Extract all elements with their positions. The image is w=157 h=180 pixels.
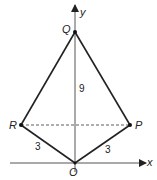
side-po xyxy=(75,125,130,163)
side-ro xyxy=(21,125,75,163)
side-qr xyxy=(21,32,75,125)
label-x: x xyxy=(146,156,153,168)
label-p: P xyxy=(135,119,143,131)
point-p xyxy=(128,123,132,127)
label-q: Q xyxy=(62,23,71,35)
length-ro: 3 xyxy=(35,141,41,152)
length-qo: 9 xyxy=(79,83,85,94)
label-r: R xyxy=(9,119,17,131)
point-o xyxy=(74,162,77,165)
point-q xyxy=(73,30,77,34)
label-y: y xyxy=(79,6,87,18)
side-qp xyxy=(75,32,130,125)
label-o: O xyxy=(69,166,78,178)
length-po: 3 xyxy=(105,144,111,155)
point-r xyxy=(19,123,23,127)
kite-diagram: y Q 9 R P 3 3 O x xyxy=(0,0,157,180)
